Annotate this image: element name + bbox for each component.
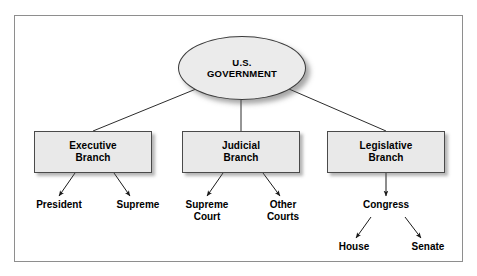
edge-judicial-to-other-courts [263, 173, 280, 196]
diagram-root: U.S. GOVERNMENT Executive Branch Judicia… [0, 0, 477, 276]
node-house[interactable]: House [318, 241, 390, 253]
node-other-courts-line2: Courts [250, 211, 316, 223]
node-supreme-court-line1: Supreme [168, 199, 246, 211]
edge-congress-to-senate [405, 217, 421, 238]
node-us-government-text: U.S. GOVERNMENT [207, 57, 277, 80]
node-executive-branch-line1: Executive [69, 140, 117, 152]
edge-root-to-legislative [289, 89, 386, 131]
node-congress[interactable]: Congress [343, 199, 429, 211]
node-executive-branch-text: Executive Branch [69, 140, 117, 164]
node-other-courts[interactable]: Other Courts [250, 199, 316, 223]
node-legislative-branch-line2: Branch [360, 152, 413, 164]
node-judicial-branch-line1: Judicial [222, 140, 260, 152]
node-cabinet-line1: Supreme [100, 199, 176, 211]
node-legislative-branch-text: Legislative Branch [360, 140, 413, 164]
node-judicial-branch-text: Judicial Branch [222, 140, 260, 164]
edge-judicial-to-supreme-court [207, 173, 223, 196]
node-us-government-line1: U.S. [207, 57, 277, 69]
edge-root-to-executive [93, 89, 196, 131]
node-president-line1: President [14, 199, 104, 211]
edge-congress-to-house [356, 217, 371, 238]
node-executive-branch-line2: Branch [69, 152, 117, 164]
edge-executive-to-cabinet [114, 173, 130, 196]
node-house-line1: House [318, 241, 390, 253]
node-president[interactable]: President [14, 199, 104, 211]
node-legislative-branch-line1: Legislative [360, 140, 413, 152]
node-cabinet[interactable]: Supreme [100, 199, 176, 211]
node-judicial-branch-line2: Branch [222, 152, 260, 164]
node-us-government[interactable]: U.S. GOVERNMENT [178, 36, 306, 100]
node-executive-branch[interactable]: Executive Branch [34, 131, 152, 173]
node-supreme-court-line2: Court [168, 211, 246, 223]
node-us-government-line2: GOVERNMENT [207, 68, 277, 80]
edge-executive-to-president [59, 173, 75, 196]
node-other-courts-line1: Other [250, 199, 316, 211]
node-judicial-branch[interactable]: Judicial Branch [182, 131, 300, 173]
node-legislative-branch[interactable]: Legislative Branch [327, 131, 445, 173]
node-senate[interactable]: Senate [392, 241, 464, 253]
node-senate-line1: Senate [392, 241, 464, 253]
node-supreme-court[interactable]: Supreme Court [168, 199, 246, 223]
node-congress-line1: Congress [343, 199, 429, 211]
